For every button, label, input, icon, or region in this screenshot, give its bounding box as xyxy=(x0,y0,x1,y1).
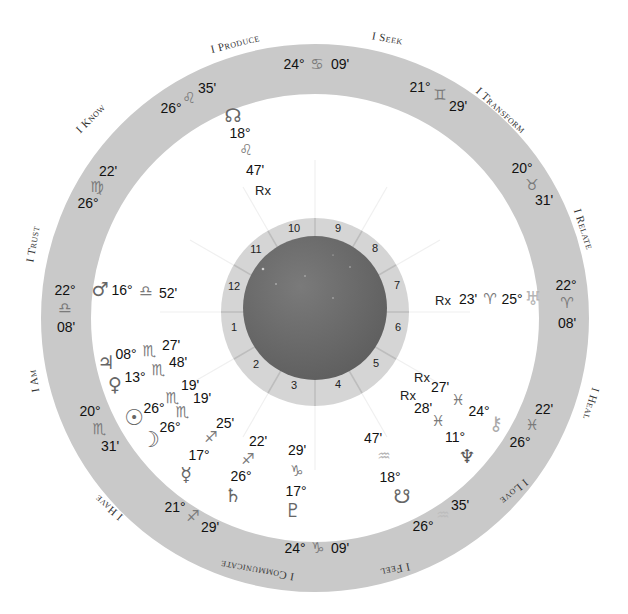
cusp-11-degree: 26° xyxy=(160,101,181,115)
cusp-4-degree: 24° xyxy=(284,541,305,555)
uranus-icon: ♅ xyxy=(524,289,541,308)
pluto-degree: 17° xyxy=(285,484,306,498)
moon-degree: 26° xyxy=(159,420,180,434)
house-number-4: 4 xyxy=(335,379,341,390)
south-node-icon: ☋ xyxy=(394,487,411,506)
north-node-degree: 18° xyxy=(229,126,250,140)
cusp-9-degree: 21° xyxy=(409,80,430,94)
saturn-minutes: 22' xyxy=(249,434,267,448)
mercury-sign-icon: ♐ xyxy=(204,430,217,445)
moon-icon: ☽ xyxy=(140,429,160,451)
neptune-sign-icon: ♓ xyxy=(431,414,444,429)
uranus-degree: 25° xyxy=(501,292,522,306)
cusp-10-minutes: 09' xyxy=(331,57,349,71)
sun-degree: 26° xyxy=(143,401,164,415)
house-number-5: 5 xyxy=(373,358,379,369)
leo-icon: ♌ xyxy=(182,91,195,106)
cusp-12-degree: 26° xyxy=(77,196,98,210)
mercury-minutes: 25' xyxy=(216,416,234,430)
cusp-4-minutes: 09' xyxy=(331,541,349,555)
mars-icon: ♂ xyxy=(91,280,108,299)
center-disc xyxy=(243,236,387,380)
cusp-10-degree: 24° xyxy=(283,57,304,71)
pluto-minutes: 29' xyxy=(288,443,306,457)
house-number-6: 6 xyxy=(395,322,401,333)
south-node-degree: 18° xyxy=(379,470,400,484)
saturn-sign-icon: ♐ xyxy=(241,452,254,467)
house-number-2: 2 xyxy=(253,359,259,370)
south-node-sign-icon: ♒ xyxy=(377,449,390,464)
chiron-sign-icon: ♓ xyxy=(451,393,464,408)
jupiter-icon: ♃ xyxy=(97,353,114,372)
cusp-8-minutes: 31' xyxy=(535,193,553,207)
chiron-degree: 24° xyxy=(468,404,489,418)
cusp-7-degree: 22° xyxy=(555,278,576,292)
pisces-icon: ♓ xyxy=(525,418,538,433)
house-number-1: 1 xyxy=(231,322,237,333)
mars-sign-icon: ♎ xyxy=(139,284,152,299)
mercury-icon: ☿ xyxy=(180,465,192,484)
taurus-icon: ♉ xyxy=(525,178,538,193)
house-number-8: 8 xyxy=(372,243,378,254)
aries-icon: ♈ xyxy=(560,296,573,311)
cusp-7-minutes: 08' xyxy=(558,316,576,330)
cusp-1-degree: 22° xyxy=(54,283,75,297)
mercury-degree: 17° xyxy=(188,448,209,462)
cusp-11-minutes: 35' xyxy=(198,81,216,95)
cusp-2-degree: 20° xyxy=(79,404,100,418)
moon-minutes: 19' xyxy=(193,391,211,405)
cusp-2-minutes: 31' xyxy=(101,439,119,453)
north-node-icon: ☊ xyxy=(225,106,242,125)
uranus-sign-icon: ♈ xyxy=(483,292,496,307)
sun-icon: ☉ xyxy=(124,407,144,429)
mars-minutes: 52' xyxy=(159,286,177,300)
libra-icon: ♎ xyxy=(58,301,71,316)
cusp-6-minutes: 22' xyxy=(535,402,553,416)
south-node-minutes: 47' xyxy=(364,431,382,445)
cusp-3-degree: 21° xyxy=(164,500,185,514)
house-number-9: 9 xyxy=(335,223,341,234)
cancer-icon: ♋ xyxy=(310,57,323,72)
cusp-5-minutes: 35' xyxy=(451,498,469,512)
capricorn-icon: ♑ xyxy=(311,541,324,556)
house-number-3: 3 xyxy=(291,380,297,391)
pluto-sign-icon: ♑ xyxy=(290,464,303,479)
house-number-11: 11 xyxy=(250,244,261,255)
mars-degree: 16° xyxy=(111,283,132,297)
house-number-12: 12 xyxy=(228,281,240,292)
aquarius-icon: ♒ xyxy=(436,508,449,523)
jupiter-minutes: 27' xyxy=(162,338,180,352)
cusp-6-degree: 26° xyxy=(509,435,530,449)
cusp-5-degree: 26° xyxy=(412,519,433,533)
cusp-1-minutes: 08' xyxy=(57,320,75,334)
uranus-retrograde: Rx xyxy=(435,294,451,307)
saturn-degree: 26° xyxy=(230,469,251,483)
chiron-minutes: 27' xyxy=(431,380,449,394)
cusp-9-minutes: 29' xyxy=(449,99,467,113)
cusp-3-minutes: 29' xyxy=(201,520,219,534)
house-number-10: 10 xyxy=(288,223,300,234)
moon-sign-icon: ♏ xyxy=(175,405,188,420)
gemini-icon: ♊ xyxy=(433,88,446,103)
sagittarius-icon: ♐ xyxy=(186,509,199,524)
neptune-degree: 11° xyxy=(445,430,465,444)
chiron-retrograde: Rx xyxy=(414,371,430,384)
north-node-minutes: 47' xyxy=(246,163,264,177)
venus-degree: 13° xyxy=(124,370,145,384)
scorpio-icon: ♏ xyxy=(92,422,105,437)
north-node-retrograde: Rx xyxy=(255,184,271,197)
house-number-7: 7 xyxy=(394,280,400,291)
cusp-8-degree: 20° xyxy=(511,161,532,175)
saturn-icon: ♄ xyxy=(224,486,241,505)
pluto-icon: ♇ xyxy=(284,501,301,520)
north-node-sign-icon: ♌ xyxy=(239,143,252,158)
neptune-minutes: 28' xyxy=(414,401,432,415)
uranus-minutes: 23' xyxy=(459,292,477,306)
chiron-icon: ⚷ xyxy=(489,414,503,433)
jupiter-degree: 08° xyxy=(115,347,136,361)
venus-sign-icon: ♏ xyxy=(151,363,164,378)
neptune-icon: ♆ xyxy=(458,447,475,466)
jupiter-sign-icon: ♏ xyxy=(142,344,155,359)
cusp-12-minutes: 22' xyxy=(99,164,117,178)
virgo-icon: ♍ xyxy=(90,180,103,195)
